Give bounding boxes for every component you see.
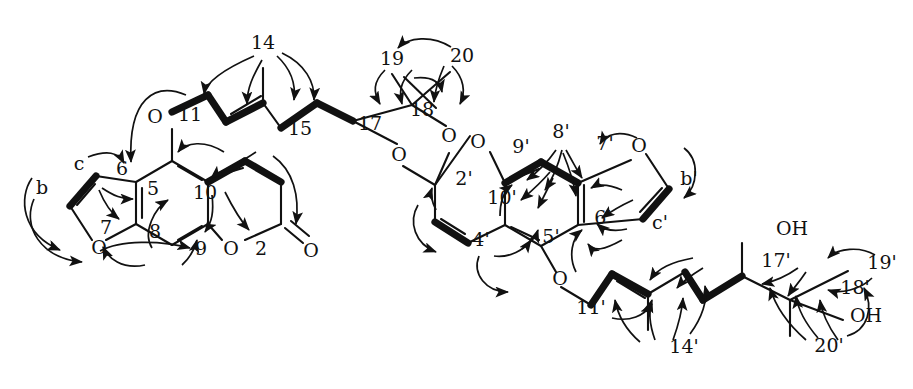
atom-label-R-7p: 7'	[596, 132, 613, 154]
atom-label-R-17p: 17'	[761, 249, 790, 271]
arrows-C6prime	[572, 230, 582, 272]
atom-label-L-6: 6	[116, 157, 128, 179]
atom-label-oxygen-pyranone-left: O	[223, 237, 239, 259]
atom-label-L-b: b	[36, 176, 48, 198]
atom-label-R-bp: b'	[680, 167, 697, 189]
left-pyranone-ring	[208, 161, 309, 243]
atom-label-L-c: c	[74, 152, 85, 174]
atom-label-L-20: 20	[450, 44, 474, 66]
atom-label-L-18: 18	[410, 98, 434, 120]
atom-label-L-14: 14	[251, 31, 275, 53]
atom-label-oxygen-furan-left: O	[91, 236, 107, 258]
arrows-C8prime	[521, 150, 582, 208]
atom-label-hydroxyl-C18prime: OH	[850, 304, 882, 326]
atom-label-R-20p: 20'	[814, 334, 843, 356]
structure-figure: 14 19 20 18 17 11 15 O O O c b 6 5 10 7 …	[0, 0, 913, 389]
atom-label-oxygen-furan-right: O	[631, 134, 647, 156]
left-benzene-ring	[136, 161, 208, 245]
atom-label-oxygen-C5: O	[147, 105, 163, 127]
atom-label-R-2p: 2'	[455, 167, 472, 189]
atom-label-hydroxyl-C17prime: OH	[776, 217, 808, 239]
atom-label-L-19: 19	[380, 47, 404, 69]
atom-label-R-19p: 19'	[867, 251, 896, 273]
atom-label-R-cp: c'	[652, 211, 668, 233]
atom-label-R-18p: 18'	[840, 276, 869, 298]
atom-label-L-10: 10	[193, 181, 217, 203]
right-prenyl-chain	[541, 243, 848, 336]
atom-label-oxygen-dioxolane-1: O	[391, 143, 407, 165]
atom-label-R-10p: 10'	[487, 186, 516, 208]
atom-label-L-17: 17	[358, 112, 382, 134]
structure-canvas: 14 19 20 18 17 11 15 O O O c b 6 5 10 7 …	[0, 0, 913, 389]
atom-label-L-2: 2	[255, 237, 267, 259]
atom-label-L-8: 8	[149, 220, 161, 242]
atom-label-R-4p: 4'	[472, 228, 489, 250]
atom-label-R-9p: 9'	[512, 135, 529, 157]
atom-label-R-6p: 6'	[594, 206, 611, 228]
atom-label-oxygen-C5prime: O	[552, 267, 568, 289]
atom-label-oxygen-linker-right: O	[470, 130, 486, 152]
atom-label-R-5p: 5'	[542, 225, 559, 247]
atom-label-R-8p: 8'	[552, 120, 569, 142]
atom-label-L-5: 5	[147, 177, 159, 199]
atom-label-L-9: 9	[195, 237, 207, 259]
atom-label-L-11: 11	[178, 103, 202, 125]
atom-label-layer: 14 19 20 18 17 11 15 O O O c b 6 5 10 7 …	[36, 31, 897, 357]
atom-label-L-15: 15	[288, 117, 312, 139]
atom-label-oxygen-ketone-left: O	[303, 239, 319, 261]
atom-label-oxygen-dioxolane-2: O	[441, 124, 457, 146]
atom-label-R-14p: 14'	[669, 335, 698, 357]
arrows-C14prime	[612, 258, 706, 342]
atom-label-R-11p: 11'	[576, 296, 605, 318]
atom-label-L-7: 7	[100, 216, 112, 238]
